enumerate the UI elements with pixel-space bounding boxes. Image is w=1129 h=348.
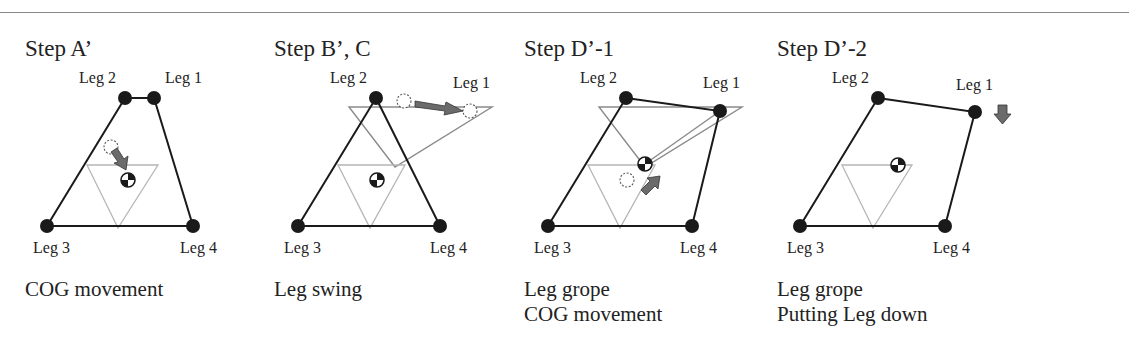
movement-arrow-icon xyxy=(415,101,463,115)
cog-icon xyxy=(370,173,384,187)
foot-leg1-icon xyxy=(968,105,982,119)
foot-leg3-icon xyxy=(793,219,807,233)
stability-triangle xyxy=(87,165,158,228)
foot-leg4-icon xyxy=(938,219,952,233)
support-polygon xyxy=(298,98,440,226)
foot-leg1-icon xyxy=(713,104,727,118)
panel-d2-diagram xyxy=(793,91,1011,233)
stability-triangle xyxy=(338,165,405,228)
cog-icon xyxy=(638,157,652,171)
panel-b-diagram xyxy=(291,91,492,233)
dashed-previous-position-circle-icon xyxy=(620,173,634,187)
support-polygon xyxy=(800,98,975,226)
foot-leg2-icon xyxy=(369,91,383,105)
foot-leg4-icon xyxy=(685,219,699,233)
dashed-target-position-circle-icon xyxy=(463,104,477,118)
cog-icon xyxy=(121,173,135,187)
stability-triangle xyxy=(588,165,655,228)
panel-d1-diagram xyxy=(541,91,742,233)
foot-leg2-icon xyxy=(118,91,132,105)
cog-icon xyxy=(891,158,905,172)
panel-a-diagram xyxy=(40,91,200,233)
down-arrow-icon xyxy=(994,105,1011,124)
foot-leg3-icon xyxy=(291,219,305,233)
foot-leg4-icon xyxy=(186,219,200,233)
foot-leg2-icon xyxy=(619,91,633,105)
stability-triangle xyxy=(842,165,912,228)
foot-leg3-icon xyxy=(40,219,54,233)
movement-arrow-icon xyxy=(111,148,128,170)
dashed-previous-position-circle-icon xyxy=(397,94,411,108)
support-polygon xyxy=(548,98,720,226)
foot-leg1-icon xyxy=(147,91,161,105)
foot-leg2-icon xyxy=(871,91,885,105)
foot-leg4-icon xyxy=(433,219,447,233)
gait-diagram xyxy=(0,0,1129,348)
foot-leg3-icon xyxy=(541,219,555,233)
